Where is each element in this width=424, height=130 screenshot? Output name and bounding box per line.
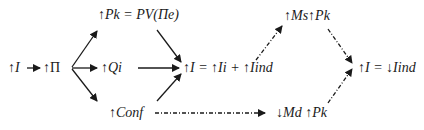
node-investment-result: ↑I = ↓Iind <box>358 60 416 76</box>
node-md-pk: ↓Md ↑Pk <box>276 105 327 121</box>
edge-pi-to-conf <box>72 69 97 101</box>
node-ms-pk: ↑Ms↑Pk <box>284 8 330 24</box>
node-investment: ↑I <box>8 60 20 76</box>
node-investment-sum: ↑I = ↑Ii + ↑Iind <box>183 60 273 76</box>
edge-mdpk-to-iresult <box>328 69 352 103</box>
edge-conf-to-isum <box>157 74 181 101</box>
edge-pk-to-isum <box>157 30 181 62</box>
node-conf: ↑Conf <box>109 105 143 121</box>
edge-pi-to-pk <box>72 31 97 67</box>
node-pk-present-value: ↑Pk = PV(Πe) <box>98 7 179 23</box>
edge-mspk-to-iresult <box>328 29 352 63</box>
edge-isum-to-mspk <box>256 26 282 60</box>
node-profit: ↑Π <box>43 60 60 76</box>
node-qi: ↑Qi <box>101 60 122 76</box>
causal-diagram: ↑I ↑Π ↑Pk = PV(Πe) ↑Qi ↑Conf ↑I = ↑Ii + … <box>0 0 424 130</box>
